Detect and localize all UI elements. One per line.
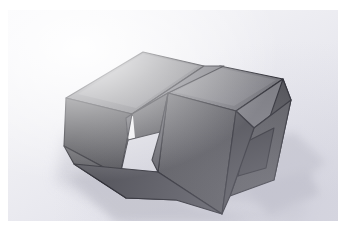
- 3d-blocks-scene: [8, 10, 338, 221]
- image-frame: [0, 0, 349, 230]
- photograph-plate: [8, 10, 338, 221]
- blocks-vector-scene: [8, 10, 338, 221]
